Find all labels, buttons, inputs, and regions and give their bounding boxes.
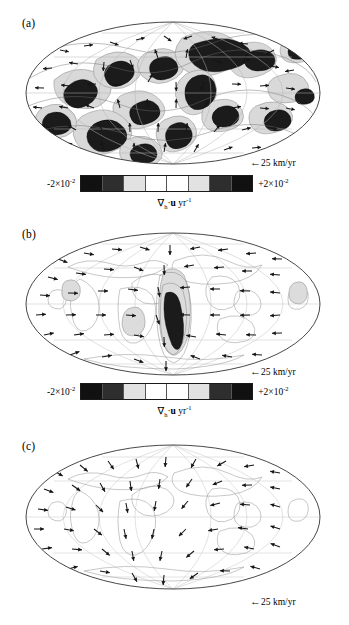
colorbar-a-segment — [103, 176, 125, 191]
colorbar-b-segment — [232, 384, 253, 399]
unit-yr-b: yr — [176, 406, 186, 416]
map-b — [24, 231, 322, 377]
map-a — [24, 20, 322, 166]
scale-arrow-text-a: 25 km/yr — [261, 158, 296, 168]
colorbar-b-min-prefix: -2×10 — [47, 388, 70, 398]
colorbar-a-max-label: +2×10-2 — [258, 177, 288, 189]
scale-arrow-text-c: 25 km/yr — [261, 597, 296, 607]
colorbar-a-caption: ∇h·u yr-1 — [0, 196, 349, 210]
colorbar-a-segment — [189, 176, 211, 191]
map-c-svg — [24, 443, 322, 591]
colorbar-b-max-exponent: -2 — [283, 385, 288, 392]
colorbar-a-segment — [146, 176, 168, 191]
unit-yr-a: yr — [176, 198, 186, 208]
panel-a: (a) — [0, 0, 349, 215]
colorbar-b-segment — [189, 384, 211, 399]
colorbar-a: -2×10-2 +2×10-2 — [47, 175, 289, 192]
colorbar-a-min-prefix: -2×10 — [47, 180, 70, 190]
scale-arrow-text-b: 25 km/yr — [261, 367, 296, 377]
colorbar-a-segment — [124, 176, 146, 191]
map-b-svg — [24, 231, 322, 377]
colorbar-b-max-label: +2×10-2 — [258, 385, 288, 397]
colorbar-a-min-label: -2×10-2 — [47, 177, 75, 189]
colorbar-b-segment — [146, 384, 168, 399]
colorbar-b-caption: ∇h·u yr-1 — [0, 404, 349, 418]
scale-arrow-glyph-a: ← — [250, 156, 261, 168]
panel-c: (c) — [0, 425, 349, 625]
colorbar-a-segment — [210, 176, 232, 191]
colorbar-b: -2×10-2 +2×10-2 — [47, 383, 289, 400]
map-a-svg — [24, 20, 322, 166]
panel-b: (b) — [0, 215, 349, 425]
colorbar-b-segment — [81, 384, 103, 399]
colorbar-b-min-exponent: -2 — [70, 385, 75, 392]
colorbar-a-max-exponent: -2 — [283, 177, 288, 184]
colorbar-a-segment — [232, 176, 253, 191]
colorbar-a-segment — [167, 176, 189, 191]
colorbar-b-max-prefix: +2×10 — [258, 388, 283, 398]
scale-arrow-c: ←25 km/yr — [250, 595, 296, 607]
colorbar-a-max-prefix: +2×10 — [258, 180, 283, 190]
figure-three-panel-global-maps: (a) — [0, 0, 349, 625]
colorbar-a-min-exponent: -2 — [70, 177, 75, 184]
scale-arrow-b: ←25 km/yr — [250, 365, 296, 377]
colorbar-b-segment — [124, 384, 146, 399]
map-c — [24, 443, 322, 591]
colorbar-b-min-label: -2×10-2 — [47, 385, 75, 397]
unit-exponent-a: -1 — [186, 196, 191, 203]
scale-arrow-a: ←25 km/yr — [250, 156, 296, 168]
colorbar-b-segment — [103, 384, 125, 399]
colorbar-b-swatches — [80, 383, 253, 400]
scale-arrow-glyph-c: ← — [250, 595, 261, 607]
colorbar-a-segment — [81, 176, 103, 191]
unit-exponent-b: -1 — [186, 404, 191, 411]
colorbar-a-swatches — [80, 175, 253, 192]
scale-arrow-glyph-b: ← — [250, 365, 261, 377]
colorbar-b-segment — [210, 384, 232, 399]
colorbar-b-segment — [167, 384, 189, 399]
